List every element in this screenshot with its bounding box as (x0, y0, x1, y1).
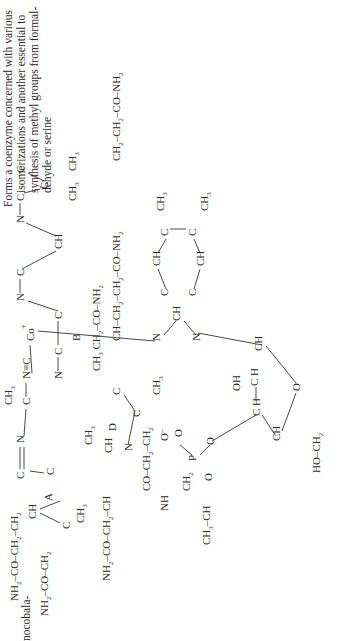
svg-text:N≡C: N≡C (20, 358, 32, 379)
cobalamin-structure-diagram: NH2–CO–CH2–CH2 NH2–CO–CH2 CH A C CH3 C C… (0, 0, 358, 641)
svg-text:O: O (202, 473, 214, 481)
svg-text:CH3: CH3 (2, 386, 17, 405)
svg-text:N: N (52, 371, 64, 379)
svg-text:C: C (52, 348, 64, 355)
svg-text:CH3: CH3 (82, 426, 97, 445)
svg-text:OH: OH (230, 375, 242, 391)
svg-text:Co: Co (24, 328, 36, 341)
svg-text:C: C (20, 398, 32, 405)
svg-text:CH: CH (150, 251, 162, 266)
svg-text:C: C (14, 194, 26, 201)
svg-text:NH2–CO–CH2–CH: NH2–CO–CH2–CH (100, 496, 115, 581)
svg-text:C: C (158, 289, 170, 296)
svg-text:D: D (106, 423, 118, 431)
svg-text:CH–CH2–CH2–CO–NH2: CH–CH2–CH2–CO–NH2 (110, 231, 125, 341)
svg-text:N: N (150, 333, 162, 341)
svg-text:C: C (186, 289, 198, 296)
svg-text:CH: CH (52, 234, 64, 249)
svg-text:CH3–CH: CH3–CH (200, 505, 215, 545)
svg-text:NH2–CO–CH2–CH2: NH2–CO–CH2–CH2 (8, 512, 23, 601)
svg-text:C: C (186, 229, 198, 236)
svg-text:C: C (110, 388, 122, 395)
svg-text:P: P (186, 455, 198, 461)
svg-text:CH: CH (170, 306, 182, 321)
svg-text:C: C (52, 312, 64, 319)
svg-text:C: C (14, 472, 26, 479)
svg-text:C: C (130, 410, 142, 417)
svg-text:O–: O– (157, 428, 170, 441)
svg-text:CH3: CH3 (66, 152, 81, 171)
svg-text:CH3: CH3 (198, 192, 213, 211)
svg-text:C: C (44, 468, 56, 475)
svg-text:CH: CH (26, 504, 38, 519)
svg-text:CH: CH (270, 426, 282, 441)
svg-text:O: O (172, 429, 184, 437)
svg-text:CH3: CH3 (150, 376, 165, 395)
svg-text:N: N (14, 293, 26, 301)
svg-text:NH2–CO–CH2: NH2–CO–CH2 (38, 551, 53, 616)
svg-text:CO–CH2–CH2: CO–CH2–CH2 (140, 427, 155, 491)
svg-text:CH3: CH3 (154, 192, 169, 211)
svg-text:N: N (190, 333, 202, 341)
svg-text:C: C (38, 182, 50, 189)
svg-text:N: N (14, 435, 26, 443)
svg-text:A: A (42, 493, 54, 501)
document-page: nocobala- Forms a coenzyme concerned wit… (0, 0, 358, 641)
svg-text:O: O (204, 437, 216, 445)
svg-text:N: N (14, 215, 26, 223)
svg-text:C H: C H (248, 368, 260, 386)
svg-text:HO–CH2: HO–CH2 (310, 432, 325, 473)
svg-text:CH2: CH2 (180, 472, 195, 491)
svg-text:+: + (19, 324, 28, 329)
svg-text:C: C (60, 522, 72, 529)
svg-text:C: C (14, 166, 26, 173)
svg-text:C: C (14, 269, 26, 276)
svg-text:C: C (158, 229, 170, 236)
svg-text:CH3 CH2–CO–NH2: CH3 CH2–CO–NH2 (90, 285, 105, 371)
svg-text:CH: CH (102, 438, 114, 453)
svg-text:CH3: CH3 (66, 182, 81, 201)
svg-text:O: O (290, 383, 302, 391)
svg-text:CH3: CH3 (74, 504, 89, 523)
svg-text:CH2–CH2–CO–NH2: CH2–CH2–CO–NH2 (110, 72, 125, 161)
svg-text:NH: NH (158, 495, 170, 511)
